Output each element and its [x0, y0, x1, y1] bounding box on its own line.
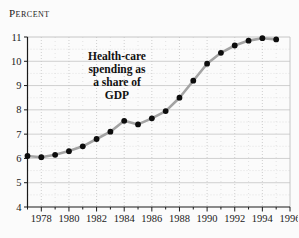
data-point [190, 78, 196, 84]
health-care-spending-chart: Percent 45678910111978198019821984198619… [0, 0, 298, 238]
x-tick-label: 1990 [197, 213, 218, 224]
y-tick-label: 4 [16, 202, 22, 213]
data-point [177, 95, 183, 101]
annotation-line-2: spending as [64, 63, 170, 76]
x-tick-label: 1994 [252, 213, 274, 224]
data-point [52, 152, 58, 158]
data-point [80, 143, 86, 149]
annotation-line-3: a share of [64, 76, 170, 89]
plot-area: 4567891011197819801982198419861988199019… [0, 0, 298, 238]
annotation-line-4: GDP [64, 89, 170, 102]
y-tick-label: 8 [16, 104, 21, 115]
data-point [259, 35, 265, 41]
y-tick-label: 9 [16, 80, 21, 91]
x-tick-label: 1984 [114, 213, 136, 224]
x-tick-label: 1980 [58, 213, 79, 224]
chart-annotation: Health-care spending as a share of GDP [64, 50, 170, 102]
data-point [38, 154, 44, 160]
y-tick-label: 5 [16, 177, 21, 188]
x-tick-label: 1996 [280, 213, 299, 224]
x-tick-label: 1992 [224, 213, 245, 224]
data-point [121, 118, 127, 124]
x-tick-label: 1988 [169, 213, 190, 224]
data-point [94, 136, 100, 142]
data-point [66, 148, 72, 154]
data-point [135, 122, 141, 128]
x-tick-label: 1986 [141, 213, 162, 224]
y-tick-label: 7 [16, 129, 21, 140]
data-point [232, 43, 238, 49]
y-tick-label: 10 [11, 56, 22, 67]
x-tick-label: 1982 [86, 213, 107, 224]
data-point [204, 61, 210, 67]
data-point [218, 50, 224, 56]
data-point [25, 153, 31, 159]
data-point [246, 38, 252, 44]
data-point [273, 37, 279, 43]
x-tick-label: 1978 [31, 213, 52, 224]
y-tick-label: 6 [16, 153, 21, 164]
data-point [107, 129, 113, 135]
data-point [163, 108, 169, 114]
data-point [149, 115, 155, 121]
y-tick-label: 11 [11, 32, 21, 43]
annotation-line-1: Health-care [64, 50, 170, 63]
